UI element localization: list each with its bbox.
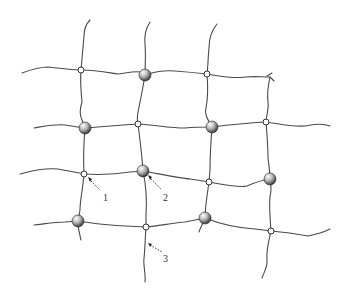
crosslink-node [135,121,141,127]
crosslink-node [78,67,84,73]
horizontal-fibers [20,67,330,236]
label-2: 2 [163,192,168,203]
annotation-1: 1 [88,177,108,203]
particle [137,165,149,177]
crosslink-node [204,71,210,77]
particle [264,173,276,185]
network-diagram: 1 2 3 [0,0,346,293]
crosslink-node [268,228,274,234]
particle [199,212,211,224]
particle [72,215,84,227]
particle [79,122,91,134]
crosslinks [78,67,274,234]
crosslink-node [143,224,149,230]
particle [139,69,151,81]
annotation-2: 2 [148,175,168,203]
crosslink-node [263,119,269,125]
annotation-3: 3 [148,243,168,264]
crosslink-node [81,171,87,177]
particles [72,69,276,227]
crosslink-node [206,179,212,185]
vertical-fibers [78,20,271,282]
particle [206,121,218,133]
label-1: 1 [103,192,108,203]
label-3: 3 [163,253,168,264]
